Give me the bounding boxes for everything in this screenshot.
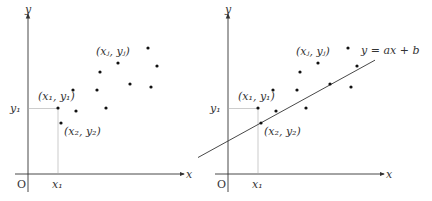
origin-label: O <box>217 178 226 191</box>
data-point <box>116 61 119 64</box>
data-point <box>149 85 152 88</box>
point-1-label: (x₁, y₁) <box>238 90 275 103</box>
data-point <box>256 106 259 109</box>
x-axis-label: x <box>386 168 393 181</box>
data-point <box>346 46 349 49</box>
data-point <box>56 106 59 109</box>
data-point <box>304 106 307 109</box>
point-j-label: (xⱼ, yⱼ) <box>296 45 330 58</box>
scatter-panel: xyOx₁y₁(x₁, y₁)(x₂, y₂)(xⱼ, yⱼ) <box>9 3 193 192</box>
y1-tick-label: y₁ <box>9 102 21 115</box>
x1-tick-label: x₁ <box>52 178 63 191</box>
point-2-label: (x₂, y₂) <box>264 125 301 138</box>
y-axis-label: y <box>24 3 32 16</box>
point-2-label: (x₂, y₂) <box>64 125 101 138</box>
data-point <box>98 70 101 73</box>
data-point <box>349 85 352 88</box>
data-point <box>274 109 277 112</box>
regression-panel: xyOx₁y₁y = ax + b(x₁, y₁)(x₂, y₂)(xⱼ, yⱼ… <box>198 3 419 192</box>
data-point <box>128 82 131 85</box>
x1-tick-label: x₁ <box>252 178 263 191</box>
origin-label: O <box>17 178 26 191</box>
diagram-canvas: xyOx₁y₁(x₁, y₁)(x₂, y₂)(xⱼ, yⱼ) xyOx₁y₁y… <box>0 0 432 201</box>
x-axis-label: x <box>186 168 193 181</box>
point-1-label: (x₁, y₁) <box>38 90 75 103</box>
data-point <box>355 64 358 67</box>
y1-tick-label: y₁ <box>209 102 221 115</box>
data-point <box>74 109 77 112</box>
data-point <box>104 106 107 109</box>
data-point <box>328 82 331 85</box>
data-point <box>259 121 262 124</box>
regression-line-label: y = ax + b <box>360 44 419 57</box>
data-point <box>59 121 62 124</box>
data-point <box>95 88 98 91</box>
data-point <box>146 46 149 49</box>
data-point <box>316 61 319 64</box>
regression-line <box>198 60 375 157</box>
y-axis-label: y <box>224 3 232 16</box>
point-j-label: (xⱼ, yⱼ) <box>96 45 130 58</box>
data-point <box>295 88 298 91</box>
data-point <box>298 70 301 73</box>
data-point <box>155 64 158 67</box>
